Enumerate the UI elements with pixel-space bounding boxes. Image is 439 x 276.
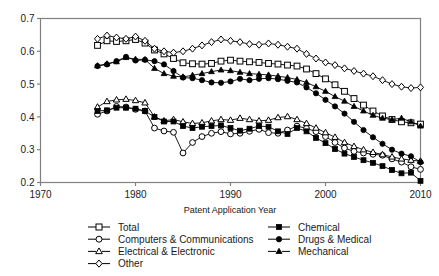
data-point-marker	[323, 141, 328, 146]
x-axis-title: Patent Application Year	[184, 205, 277, 215]
data-point-marker	[237, 76, 242, 81]
data-point-marker	[180, 60, 186, 66]
data-point-marker	[266, 61, 272, 67]
legend-label: Total	[118, 222, 139, 233]
data-point-marker	[313, 91, 318, 96]
data-point-marker	[361, 158, 366, 163]
data-point-marker	[351, 148, 357, 154]
data-point-marker	[351, 119, 356, 124]
data-point-marker	[133, 106, 138, 111]
data-point-marker	[171, 119, 176, 124]
data-point-marker	[380, 164, 385, 169]
x-tick-label: 2000	[314, 189, 337, 200]
data-point-marker	[152, 114, 157, 119]
data-point-marker	[124, 105, 129, 110]
data-point-marker	[332, 104, 337, 109]
data-point-marker	[380, 141, 385, 146]
data-point-marker	[209, 61, 215, 67]
x-tick-label: 1970	[29, 189, 52, 200]
data-point-marker	[276, 224, 281, 229]
data-point-marker	[209, 124, 214, 129]
data-point-marker	[152, 125, 158, 131]
data-point-marker	[304, 129, 309, 134]
data-point-marker	[399, 171, 404, 176]
data-point-marker	[342, 145, 348, 151]
data-point-marker	[95, 109, 100, 114]
legend-label: Chemical	[298, 222, 340, 233]
y-tick-label: 0.2	[21, 177, 35, 188]
data-point-marker	[180, 150, 186, 156]
data-point-marker	[361, 102, 367, 108]
data-point-marker	[332, 140, 338, 146]
data-point-marker	[237, 58, 243, 64]
data-point-marker	[190, 126, 195, 131]
data-point-marker	[219, 123, 224, 128]
data-point-marker	[209, 80, 214, 85]
data-point-marker	[256, 60, 262, 66]
data-point-marker	[323, 76, 329, 82]
data-point-marker	[96, 224, 102, 230]
data-point-marker	[190, 140, 196, 146]
x-tick-label: 2010	[409, 189, 432, 200]
data-point-marker	[114, 105, 119, 110]
data-point-marker	[161, 62, 166, 67]
data-point-marker	[275, 61, 281, 67]
data-point-marker	[294, 63, 300, 69]
data-point-marker	[323, 97, 328, 102]
legend-label: Drugs & Medical	[298, 234, 371, 245]
y-tick-label: 0.7	[21, 13, 35, 24]
data-point-marker	[266, 124, 271, 129]
data-point-marker	[152, 59, 157, 64]
data-point-marker	[352, 154, 357, 159]
data-point-marker	[371, 160, 376, 165]
data-point-marker	[408, 164, 414, 170]
data-point-marker	[304, 66, 310, 72]
data-point-marker	[200, 124, 205, 129]
data-point-marker	[143, 109, 148, 114]
patent-originality-line-chart: 0.20.30.40.50.60.7 19701980199020002010 …	[0, 0, 439, 276]
data-point-marker	[276, 237, 281, 242]
legend-label: Other	[118, 258, 144, 269]
data-point-marker	[304, 85, 309, 90]
data-point-marker	[190, 61, 196, 67]
data-point-marker	[295, 126, 300, 131]
data-point-marker	[342, 88, 348, 94]
data-point-marker	[218, 80, 223, 85]
data-point-marker	[209, 130, 215, 136]
data-point-marker	[199, 78, 204, 83]
data-point-marker	[247, 78, 252, 83]
data-point-marker	[418, 178, 423, 183]
chart-figure: 0.20.30.40.50.60.7 19701980199020002010 …	[0, 0, 439, 276]
data-point-marker	[342, 111, 347, 116]
data-point-marker	[342, 151, 347, 156]
data-point-marker	[370, 135, 375, 140]
data-point-marker	[361, 127, 366, 132]
data-point-marker	[256, 76, 261, 81]
data-point-marker	[390, 168, 395, 173]
data-point-marker	[399, 151, 404, 156]
data-point-marker	[105, 108, 110, 113]
data-point-marker	[228, 79, 233, 84]
y-tick-label: 0.6	[21, 46, 35, 57]
y-tick-label: 0.4	[21, 112, 35, 123]
legend-label: Electrical & Electronic	[118, 246, 215, 257]
data-point-marker	[247, 126, 252, 131]
y-tick-label: 0.3	[21, 144, 35, 155]
data-point-marker	[161, 128, 167, 134]
data-point-marker	[389, 147, 394, 152]
data-point-marker	[314, 135, 319, 140]
data-point-marker	[228, 131, 234, 137]
data-point-marker	[333, 147, 338, 152]
data-point-marker	[313, 71, 319, 77]
data-point-marker	[181, 124, 186, 129]
data-point-marker	[228, 126, 233, 131]
data-point-marker	[218, 129, 224, 135]
data-point-marker	[247, 59, 253, 65]
data-point-marker	[162, 119, 167, 124]
legend-label: Computers & Communications	[118, 234, 254, 245]
data-point-marker	[408, 154, 413, 159]
data-point-marker	[285, 131, 290, 136]
data-point-marker	[276, 129, 281, 134]
data-point-marker	[238, 128, 243, 133]
data-point-marker	[418, 166, 424, 172]
